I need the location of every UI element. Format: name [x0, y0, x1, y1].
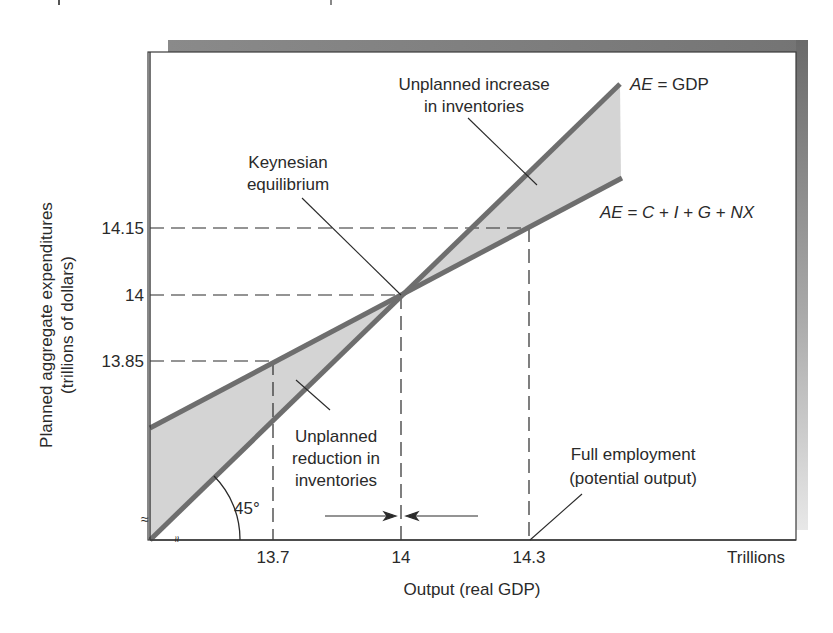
- svg-text:Keynesian: Keynesian: [248, 153, 327, 172]
- ae-c-i-g-nx-label: AE = C + I + G + NX: [599, 203, 755, 222]
- angle-label: 45°: [234, 499, 260, 518]
- y-tick-13.85: 13.85: [101, 352, 144, 371]
- svg-text:Unplanned: Unplanned: [295, 427, 377, 446]
- x-tick-14.3: 14.3: [512, 548, 545, 567]
- ae-gdp-label: AE = GDP: [629, 75, 709, 94]
- frame-shadow-top: [168, 40, 808, 53]
- svg-text:(trillions of dollars): (trillions of dollars): [58, 256, 77, 394]
- page-top-mark-left: [58, 0, 60, 5]
- keynesian-cross-chart: ≈ ≈ 45° 14.15 14 13.85 13.7 14 14.3 Tril…: [0, 0, 833, 633]
- y-tick-14.15: 14.15: [101, 219, 144, 238]
- x-tick-14: 14: [392, 548, 411, 567]
- svg-text:inventories: inventories: [295, 471, 377, 490]
- svg-text:Planned aggregate expenditures: Planned aggregate expenditures: [37, 202, 56, 448]
- x-axis-title: Output (real GDP): [404, 580, 541, 599]
- page-top-mark-right: [330, 0, 332, 5]
- frame-shadow-right: [796, 40, 808, 530]
- svg-text:Unplanned increase: Unplanned increase: [398, 75, 549, 94]
- y-tick-14: 14: [125, 286, 144, 305]
- svg-text:Full employment: Full employment: [571, 445, 696, 464]
- y-axis-break-icon: ≈: [141, 511, 149, 527]
- x-axis-break-icon: ≈: [170, 536, 184, 543]
- y-axis-title: Planned aggregate expenditures (trillion…: [37, 202, 77, 448]
- svg-text:equilibrium: equilibrium: [247, 175, 329, 194]
- svg-text:in inventories: in inventories: [424, 97, 524, 116]
- plot-frame: [148, 52, 796, 540]
- x-tick-13.7: 13.7: [256, 548, 289, 567]
- x-unit-label: Trillions: [727, 548, 785, 567]
- svg-text:(potential output): (potential output): [569, 469, 697, 488]
- svg-text:reduction in: reduction in: [292, 449, 380, 468]
